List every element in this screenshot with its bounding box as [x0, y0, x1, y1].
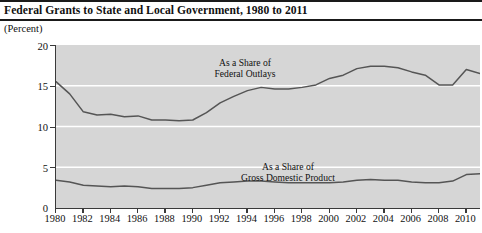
x-tick-label-2010: 2010 [447, 213, 482, 225]
chart-figure: Federal Grants to State and Local Govern… [0, 0, 482, 233]
y-tick-label-20: 20 [14, 41, 48, 52]
y-axis-unit-label: (Percent) [4, 22, 42, 35]
chart-title: Federal Grants to State and Local Govern… [4, 3, 308, 18]
gridlines [56, 86, 480, 168]
title-rule-top [0, 0, 482, 2]
series-annotation-federal-outlays-line2: Federal Outlays [185, 69, 305, 80]
series-annotation-federal-outlays: As a Share of Federal Outlays [185, 58, 305, 79]
series-annotation-gdp-line1: As a Share of [213, 162, 363, 173]
y-tick-label-15: 15 [14, 81, 48, 92]
series-annotation-gdp: As a Share of Gross Domestic Product [213, 162, 363, 183]
series-annotation-federal-outlays-line1: As a Share of [185, 58, 305, 69]
y-tick-label-10: 10 [14, 122, 48, 133]
title-rule-bottom [0, 19, 482, 21]
series-annotation-gdp-line2: Gross Domestic Product [213, 173, 363, 184]
y-tick-label-5: 5 [14, 163, 48, 174]
